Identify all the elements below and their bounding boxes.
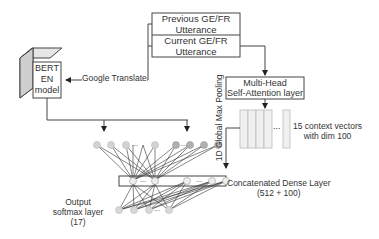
context-vectors-label: 15 context vectorswith dim 100 bbox=[293, 121, 362, 141]
current-utterance-label: Current GE/FRUtterance bbox=[152, 36, 240, 58]
input-nodes bbox=[94, 142, 222, 149]
ellipsis-mid-1: ... bbox=[140, 176, 146, 184]
ellipsis-top-2: ... bbox=[181, 140, 187, 148]
ellipsis-top-1: ... bbox=[132, 140, 138, 148]
google-translate-label: Google Translate bbox=[82, 74, 147, 84]
ellipsis-mid-2: ... bbox=[196, 176, 202, 184]
dense-layer-label: Concatenated Dense Layer(512 + 100) bbox=[227, 178, 331, 198]
context-ellipsis: ... bbox=[273, 121, 281, 131]
output-layer-label: Outputsoftmax layer(17) bbox=[48, 197, 108, 227]
previous-utterance-label: Previous GE/FRUtterance bbox=[152, 14, 240, 36]
bert-label: BERTENmodel bbox=[33, 63, 61, 96]
pooling-label: 1D Global Max Pooling bbox=[215, 58, 225, 178]
attention-label: Multi-HeadSelf-Attention layer bbox=[226, 78, 304, 98]
ellipsis-out: ... bbox=[154, 205, 160, 213]
context-vectors bbox=[240, 110, 290, 148]
